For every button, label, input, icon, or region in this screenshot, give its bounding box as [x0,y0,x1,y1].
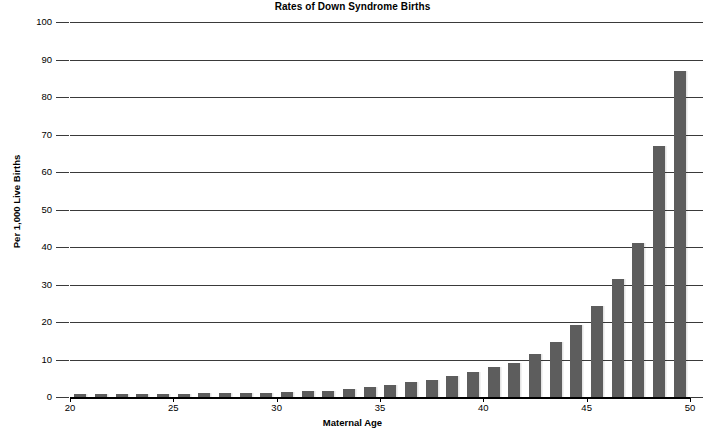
gridline-y-100 [70,22,690,23]
gridline-y-70 [70,135,690,136]
y-tick-right-70 [690,135,703,136]
y-tick-right-10 [690,360,703,361]
bar-age-42[interactable] [529,354,541,397]
y-axis-label-50: 50 [4,205,52,215]
bar-age-47[interactable] [632,243,644,397]
y-tick-10 [56,360,69,361]
y-tick-right-90 [690,60,703,61]
bar-age-34[interactable] [364,387,376,397]
y-axis-label-30: 30 [4,280,52,290]
y-tick-50 [56,210,69,211]
bar-age-49[interactable] [674,71,686,397]
bar-age-40[interactable] [488,367,500,397]
y-tick-20 [56,322,69,323]
y-axis-tick-labels: 1009080706050403020100 [0,0,52,442]
bar-age-35[interactable] [384,385,396,397]
bar-age-39[interactable] [467,372,479,397]
y-tick-right-40 [690,247,703,248]
x-axis-title: Maternal Age [0,417,705,428]
y-axis-label-100: 100 [4,17,52,27]
gridline-y-50 [70,210,690,211]
bar-age-45[interactable] [591,306,603,397]
y-axis-label-60: 60 [4,167,52,177]
y-tick-right-50 [690,210,703,211]
x-axis-label-45: 45 [572,402,602,414]
y-axis-label-40: 40 [4,242,52,252]
y-tick-40 [56,247,69,248]
y-tick-right-60 [690,172,703,173]
x-axis-label-40: 40 [468,402,498,414]
bar-age-41[interactable] [508,363,520,397]
y-tick-0 [56,397,69,398]
y-tick-80 [56,97,69,98]
x-axis-label-35: 35 [365,402,395,414]
y-tick-70 [56,135,69,136]
y-axis-label-80: 80 [4,92,52,102]
gridline-y-90 [70,60,690,61]
y-tick-right-20 [690,322,703,323]
x-axis-label-50: 50 [675,402,705,414]
y-tick-90 [56,60,69,61]
y-tick-100 [56,22,69,23]
y-tick-30 [56,285,69,286]
gridline-y-30 [70,285,690,286]
bar-age-46[interactable] [612,279,624,397]
bar-age-48[interactable] [653,146,665,397]
gridline-y-60 [70,172,690,173]
gridline-y-80 [70,97,690,98]
bar-age-37[interactable] [426,380,438,397]
y-axis-label-90: 90 [4,55,52,65]
y-axis-label-20: 20 [4,317,52,327]
bar-age-33[interactable] [343,389,355,397]
y-tick-60 [56,172,69,173]
chart-container: Rates of Down Syndrome Births Per 1,000 … [0,0,705,442]
x-axis-label-25: 25 [158,402,188,414]
bar-age-38[interactable] [446,376,458,397]
bar-age-43[interactable] [550,342,562,397]
gridline-y-40 [70,247,690,248]
bar-age-36[interactable] [405,382,417,397]
x-axis-label-30: 30 [262,402,292,414]
y-tick-right-100 [690,22,703,23]
y-tick-right-80 [690,97,703,98]
x-axis-label-20: 20 [55,402,85,414]
y-axis-label-70: 70 [4,130,52,140]
y-tick-right-0 [690,397,703,398]
chart-title: Rates of Down Syndrome Births [0,1,705,12]
plot-area [70,22,690,397]
bar-age-44[interactable] [570,325,582,397]
y-axis-label-10: 10 [4,355,52,365]
y-tick-right-30 [690,285,703,286]
y-axis-label-0: 0 [4,392,52,402]
